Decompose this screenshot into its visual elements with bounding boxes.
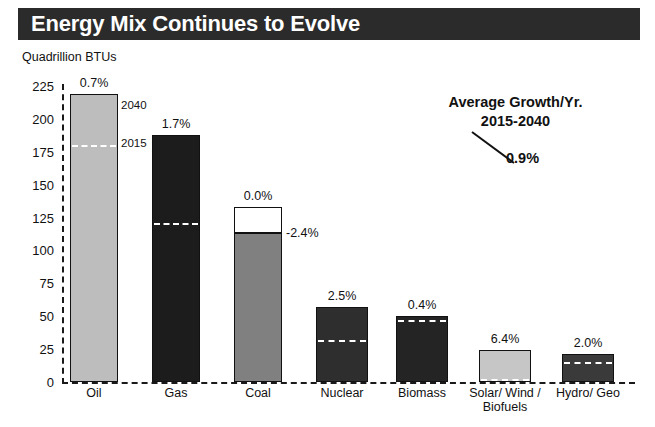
bar-coal — [234, 233, 282, 382]
y-axis-tick-labels: 0255075100125150175200225 — [12, 0, 54, 427]
bar-hydro-geo — [562, 354, 614, 382]
category-label: Nuclear — [320, 386, 363, 400]
bar-value-label: 0.4% — [408, 298, 437, 312]
coal-growth-callout: -2.4% — [286, 226, 319, 240]
y-axis-tick-125: 125 — [12, 210, 54, 225]
bar-value-label: 2.0% — [574, 336, 603, 350]
bar-value-label: 6.4% — [491, 332, 520, 346]
category-label: Coal — [245, 386, 271, 400]
bar-coal-2015-marker — [236, 209, 280, 211]
bar-biomass — [396, 316, 448, 382]
bar-hydro-geo-2015-marker — [564, 362, 612, 364]
category-label-line-2: Biofuels — [469, 400, 541, 414]
annotation-value: 0.9% — [506, 150, 539, 166]
bar-biomass-2015-marker — [398, 320, 446, 322]
bar-value-label: 2.5% — [328, 289, 357, 303]
bar-oil — [70, 94, 118, 382]
bar-value-label: 1.7% — [162, 117, 191, 131]
y-axis-tick-225: 225 — [12, 79, 54, 94]
oil-2040-callout: 2040 — [121, 99, 147, 111]
annotation-line-1: Average Growth/Yr. — [408, 93, 623, 112]
oil-2015-callout: 2015 — [121, 137, 147, 149]
y-axis-line — [62, 84, 64, 384]
x-axis-baseline — [62, 382, 635, 384]
bar-value-label: 0.7% — [80, 76, 109, 90]
category-label: Oil — [86, 386, 101, 400]
y-axis-tick-150: 150 — [12, 177, 54, 192]
y-axis-tick-175: 175 — [12, 144, 54, 159]
bar-oil-2015-marker — [72, 145, 116, 147]
annotation-block: Average Growth/Yr. 2015-2040 — [408, 93, 623, 131]
y-axis-tick-100: 100 — [12, 243, 54, 258]
bar-gas — [152, 135, 200, 382]
y-axis-tick-0: 0 — [12, 375, 54, 390]
y-axis-tick-200: 200 — [12, 111, 54, 126]
annotation-line-2: 2015-2040 — [408, 112, 623, 131]
y-axis-tick-75: 75 — [12, 276, 54, 291]
bar-value-label: 0.0% — [244, 189, 273, 203]
bar-solar-wind — [479, 350, 531, 382]
category-label: Biomass — [398, 386, 446, 400]
category-label: Gas — [165, 386, 188, 400]
bar-chart: 0255075100125150175200225 0.7%Oil1.7%Gas… — [0, 0, 655, 427]
y-axis-tick-50: 50 — [12, 309, 54, 324]
y-axis-tick-25: 25 — [12, 342, 54, 357]
bar-nuclear — [316, 307, 368, 382]
bar-nuclear-2015-marker — [318, 340, 366, 342]
category-label: Solar/ Wind /Biofuels — [469, 386, 541, 414]
bar-gas-2015-marker — [154, 223, 198, 225]
bar-solar-wind-2015-marker — [481, 379, 529, 381]
category-label: Hydro/ Geo — [556, 386, 620, 400]
